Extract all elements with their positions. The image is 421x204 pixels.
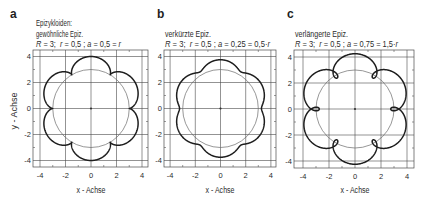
panel-label: b	[157, 7, 164, 21]
origin-dot	[354, 108, 356, 110]
panel-label: a	[10, 7, 17, 21]
y-tick-labels: -4-2024	[24, 52, 31, 165]
y-tick-label: -4	[24, 156, 31, 165]
param-symbol: r	[119, 39, 122, 49]
panel-b: b verkürzte Epiz. R = 3; r = 0,5 ; a = 0…	[155, 7, 276, 195]
x-tick-labels: -4-2024	[37, 171, 144, 180]
x-tick-label: 4	[405, 172, 409, 181]
param-value: = 3;	[300, 39, 319, 49]
x-tick-label: 0	[353, 172, 357, 181]
x-tick-label: 4	[269, 171, 273, 180]
param-value: = 0,25 = 0,5·	[222, 39, 267, 49]
x-tick-label: -2	[326, 172, 333, 181]
panel-title-line: verlängerte Epiz.	[295, 29, 348, 39]
y-tick-label: 4	[27, 52, 31, 61]
parameter-line: R = 3; r = 0,5 ; a = 0,25 = 0,5·r	[165, 39, 271, 49]
y-tick-label: 0	[288, 105, 292, 114]
param-value: = 3;	[41, 39, 60, 49]
panel-subtitle-line: gewöhnliche Epiz.	[36, 29, 83, 39]
x-tick-label: 0	[218, 171, 222, 180]
y-tick-label: 2	[158, 78, 162, 87]
y-tick-label: 2	[27, 78, 31, 87]
x-tick-label: -2	[62, 171, 69, 180]
y-tick-label: -4	[155, 156, 162, 165]
param-symbol: r	[267, 39, 271, 49]
x-axis-label: x - Achse	[341, 185, 370, 195]
plot-area: -4-2024 -4-2024	[24, 50, 148, 180]
x-tick-labels: -4-2024	[167, 171, 273, 180]
x-tick-labels: -4-2024	[300, 172, 409, 181]
y-tick-label: 0	[27, 104, 31, 113]
epicycloid-figure: y - Achse a Epizykloiden: gewöhnliche Ep…	[0, 0, 421, 204]
y-axis-label: y - Achse	[9, 92, 19, 129]
y-tick-labels: -4-2024	[285, 53, 292, 166]
param-value: = 0,5 ;	[192, 39, 218, 49]
origin-dot	[219, 107, 221, 109]
y-tick-label: 4	[288, 53, 292, 62]
y-tick-label: -2	[285, 131, 292, 140]
plot-area: -4-2024 -4-2024	[285, 50, 414, 181]
y-tick-label: 0	[158, 104, 162, 113]
param-value: = 0,75 = 1,5·	[351, 39, 395, 49]
y-tick-label: -2	[24, 130, 31, 139]
panel-title-line: verkürzte Epiz.	[165, 29, 211, 39]
x-tick-label: -4	[167, 171, 174, 180]
y-tick-label: 2	[288, 79, 292, 88]
x-tick-label: -2	[192, 171, 199, 180]
y-tick-labels: -4-2024	[155, 52, 162, 165]
x-tick-label: -4	[37, 171, 44, 180]
param-value: = 0,5 =	[91, 39, 118, 49]
y-tick-label: 4	[158, 52, 162, 61]
x-axis-label: x - Achse	[77, 185, 106, 195]
param-value: = 3;	[170, 39, 189, 49]
parameter-line: R = 3; r = 0,5 ; a = 0,5 = r	[36, 39, 122, 49]
param-symbol: r	[396, 39, 400, 49]
panel-title-line: Epizykloiden:	[36, 18, 72, 28]
panel-label: c	[287, 7, 294, 21]
x-axis-label: x - Achse	[206, 185, 235, 195]
origin-dot	[90, 107, 92, 109]
y-tick-label: -2	[155, 130, 162, 139]
param-value: = 0,5 ;	[62, 39, 87, 49]
x-tick-label: 2	[244, 171, 248, 180]
x-tick-label: 2	[379, 172, 383, 181]
plot-area: -4-2024 -4-2024	[155, 50, 276, 180]
parameter-line: R = 3; r = 0,5 ; a = 0,75 = 1,5·r	[295, 39, 399, 49]
panel-a: a Epizykloiden: gewöhnliche Epiz. R = 3;…	[10, 7, 148, 195]
x-tick-label: 0	[89, 171, 93, 180]
y-tick-label: -4	[285, 157, 292, 166]
x-tick-label: -4	[300, 172, 307, 181]
panel-c: c verlängerte Epiz. R = 3; r = 0,5 ; a =…	[285, 7, 414, 195]
param-value: = 0,5 ;	[322, 39, 347, 49]
x-tick-label: 4	[140, 171, 144, 180]
x-tick-label: 2	[114, 171, 118, 180]
